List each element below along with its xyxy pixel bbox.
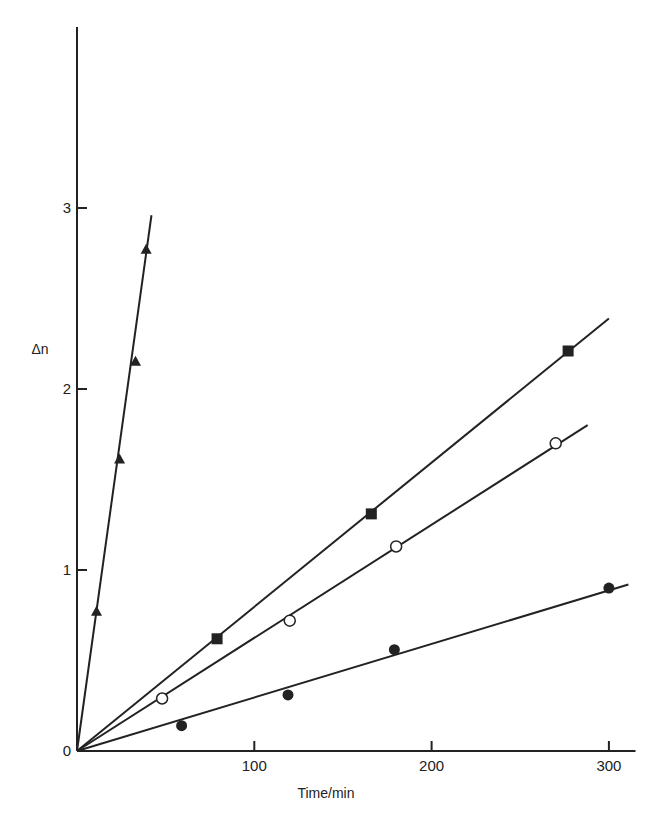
triangle-marker <box>91 606 102 616</box>
y-tick-label: 3 <box>63 199 71 216</box>
fit-lines <box>77 215 628 751</box>
fit-line <box>77 215 151 751</box>
x-tick-label: 100 <box>242 757 267 774</box>
y-tick-label: 2 <box>63 380 71 397</box>
square-marker <box>212 633 223 644</box>
triangle-marker <box>114 454 125 464</box>
x-axis-label: Time/min <box>297 785 354 801</box>
axes: 0123100200300 <box>63 27 636 774</box>
filled-circle-marker <box>603 583 614 594</box>
square-marker <box>563 345 574 356</box>
y-tick-label: 0 <box>63 742 71 759</box>
open-circle-marker <box>284 615 295 626</box>
filled-circle-marker <box>389 644 400 655</box>
fit-line <box>77 584 628 751</box>
fit-line <box>77 425 588 751</box>
open-circle-marker <box>391 541 402 552</box>
chart-canvas: 0123100200300 Time/min Δn <box>0 0 668 825</box>
x-tick-label: 300 <box>596 757 621 774</box>
open-circle-marker <box>550 438 561 449</box>
y-tick-label: 1 <box>63 561 71 578</box>
square-marker <box>366 508 377 519</box>
open-circle-marker <box>157 693 168 704</box>
filled-circle-marker <box>176 720 187 731</box>
y-axis-label: Δn <box>31 341 48 357</box>
filled-circle-marker <box>282 689 293 700</box>
triangle-marker <box>141 244 152 254</box>
data-markers <box>91 244 614 732</box>
x-tick-label: 200 <box>419 757 444 774</box>
fit-line <box>77 318 609 751</box>
